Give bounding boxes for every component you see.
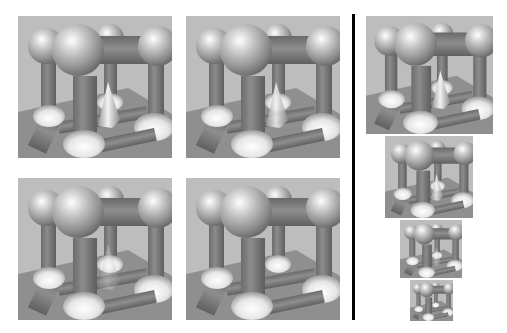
rendered-scene-image <box>400 220 462 278</box>
render-panel-a <box>18 16 172 158</box>
rendered-scene-image <box>366 16 493 134</box>
render-panel-d <box>186 178 340 320</box>
vertical-divider <box>352 14 355 320</box>
rendered-scene-image <box>186 16 340 158</box>
pyramid-level-0 <box>366 16 493 134</box>
render-panel-b <box>186 16 340 158</box>
rendered-scene-image <box>18 178 172 320</box>
pyramid-level-2 <box>400 220 462 278</box>
pyramid-level-1 <box>385 136 473 218</box>
render-panel-c <box>18 178 172 320</box>
pyramid-level-3 <box>410 280 453 321</box>
rendered-scene-image <box>186 178 340 320</box>
rendered-scene-image <box>410 280 453 321</box>
rendered-scene-image <box>18 16 172 158</box>
rendered-scene-image <box>385 136 473 218</box>
